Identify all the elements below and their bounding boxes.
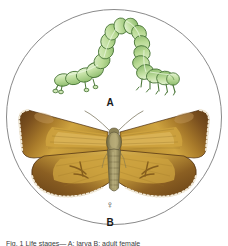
moth-hindwing-right xyxy=(118,150,196,197)
moth-hindwing-left xyxy=(32,150,110,197)
female-sex-symbol: ♀ xyxy=(98,200,122,210)
figure-b-moth xyxy=(14,96,214,208)
figure-stage: A xyxy=(0,0,228,246)
illustration-plate: A xyxy=(0,0,228,246)
moth-antennae xyxy=(85,111,143,130)
figure-b-label: B xyxy=(98,218,122,228)
plate-caption: Fig. 1 Life stages— A: larva B: adult fe… xyxy=(6,240,222,246)
caterpillar-right-arch xyxy=(129,22,153,71)
figure-a-caterpillar xyxy=(52,16,178,98)
caterpillar-head-segments xyxy=(134,62,179,95)
